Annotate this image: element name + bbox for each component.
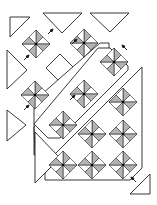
setting-triangle-top-2 [90,13,129,32]
center-point [34,94,37,97]
center-point [83,42,86,45]
center-point [122,133,125,136]
arrow-icon [24,55,29,60]
arrow-icon [24,105,29,110]
arrow-icon [48,29,53,34]
setting-triangle-left-1 [7,50,27,89]
quilt-assembly-diagram [0,0,157,205]
center-point [62,124,65,127]
setting-triangle-left-2 [7,110,26,141]
center-point [91,164,94,167]
pinwheel-star-block [22,30,50,58]
setting-triangle-top-1 [43,13,82,33]
corner-triangle-top-left [10,17,30,37]
center-point [122,164,125,167]
center-point [83,93,86,96]
center-point [62,164,65,167]
arrow-icon [122,45,127,50]
center-point [91,133,94,136]
center-point [122,101,125,104]
center-point [113,61,116,64]
center-point [35,43,38,46]
arrow-icon [131,177,136,182]
